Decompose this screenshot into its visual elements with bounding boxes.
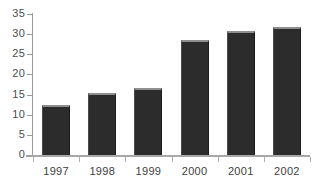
x-axis-category-label: 2001 <box>218 165 264 177</box>
bar <box>273 27 301 156</box>
x-axis-category-label: 2002 <box>264 165 310 177</box>
y-axis-tick <box>27 135 32 136</box>
x-axis-line <box>26 155 310 157</box>
y-axis-tick <box>27 34 32 35</box>
bar <box>134 88 162 155</box>
y-axis-tick-label: 35 <box>1 8 25 19</box>
y-axis-tick-label: 5 <box>1 129 25 140</box>
x-axis-category-label: 2000 <box>172 165 218 177</box>
y-axis-tick-label: 15 <box>1 89 25 100</box>
y-axis-tick <box>27 54 32 55</box>
x-axis-category-label: 1997 <box>33 165 79 177</box>
x-axis-tick <box>310 157 311 162</box>
x-axis-tick <box>218 157 219 162</box>
y-axis-tick-label: 10 <box>1 109 25 120</box>
y-axis-tick-label: 30 <box>1 28 25 39</box>
y-axis-tick <box>27 14 32 15</box>
y-axis-labels: 05101520253035 <box>0 0 25 184</box>
y-axis-tick <box>27 74 32 75</box>
bar <box>227 31 255 155</box>
x-axis-tick <box>125 157 126 162</box>
y-axis-tick-label: 25 <box>1 48 25 59</box>
x-axis-category-label: 1998 <box>79 165 125 177</box>
y-axis-tick <box>27 95 32 96</box>
x-axis-tick <box>264 157 265 162</box>
bar <box>42 105 70 155</box>
x-axis-tick <box>33 157 34 162</box>
plot-area <box>33 14 310 155</box>
bar <box>181 40 209 155</box>
bar <box>88 93 116 155</box>
x-axis-tick <box>79 157 80 162</box>
x-axis-category-label: 1999 <box>125 165 171 177</box>
y-axis-tick-label: 20 <box>1 68 25 79</box>
x-axis-tick <box>172 157 173 162</box>
y-axis-tick <box>27 155 32 156</box>
y-axis-tick-label: 0 <box>1 149 25 160</box>
bar-chart: 05101520253035 199719981999200020012002 <box>0 0 315 184</box>
y-axis-tick <box>27 115 32 116</box>
